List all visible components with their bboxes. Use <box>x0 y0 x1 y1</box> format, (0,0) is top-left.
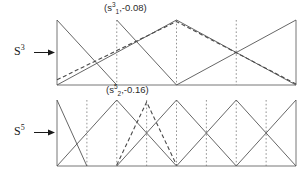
annotation-top-rest: ,-0.08) <box>119 2 146 13</box>
annotation-bottom-rest: ,-0.16) <box>121 84 148 95</box>
annotation-bottom-open: (s <box>106 84 114 95</box>
panel-s5 <box>57 100 296 166</box>
figure-container: S3 S5 (s31,-0.08) (s52,-0.16) <box>0 0 308 174</box>
panel-s3 <box>57 20 296 85</box>
s5-gridlines <box>87 100 266 166</box>
s5-hat-functions <box>57 100 296 166</box>
s3-hat-2 <box>117 20 177 85</box>
arrow-s3-icon <box>34 48 56 57</box>
s3-hat-functions <box>57 20 296 85</box>
annotation-top: (s31,-0.08) <box>104 2 147 13</box>
row-label-s3-base: S <box>14 44 21 58</box>
s5-hat-1 <box>57 100 117 166</box>
s5-hat-0 <box>57 100 87 166</box>
plot-svg <box>0 0 308 174</box>
annotation-bottom-superscript: 5 <box>114 83 118 90</box>
row-label-s5-exponent: 5 <box>21 123 25 132</box>
annotation-top-open: (s <box>104 2 112 13</box>
row-label-s5-base: S <box>14 124 21 138</box>
row-label-s5: S5 <box>14 124 25 139</box>
panel-s5-frame <box>57 100 296 166</box>
panel-s3-frame <box>57 20 296 85</box>
arrow-s5-icon <box>34 128 56 137</box>
annotation-bottom: (s52,-0.16) <box>106 84 149 95</box>
row-label-s3-exponent: 3 <box>21 43 25 52</box>
annotation-top-superscript: 3 <box>112 1 116 8</box>
row-label-s3: S3 <box>14 44 25 59</box>
s3-gridlines <box>117 20 237 85</box>
